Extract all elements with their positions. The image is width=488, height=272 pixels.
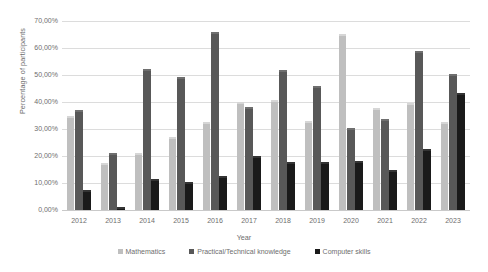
bar-face [287, 164, 295, 210]
bar-face [449, 76, 457, 210]
bar-top [441, 122, 449, 124]
bar [381, 121, 389, 210]
bar [169, 139, 177, 210]
bar-face [381, 121, 389, 210]
bar-face [313, 88, 321, 210]
legend-label: Practical/Technical knowledge [197, 248, 290, 255]
bar-face [347, 130, 355, 210]
bar-top [381, 119, 389, 121]
bar-top [67, 116, 75, 118]
bar [449, 76, 457, 210]
bar-top [423, 149, 431, 151]
y-axis-tick: 70,00% [16, 17, 58, 25]
bar-top [185, 182, 193, 184]
bar [75, 112, 83, 210]
bar-face [185, 184, 193, 210]
bar-face [373, 110, 381, 210]
legend-item[interactable]: Mathematics [118, 248, 166, 255]
bar-top [279, 70, 287, 72]
legend-swatch [189, 249, 194, 254]
bar [415, 53, 423, 210]
bar-top [415, 51, 423, 53]
bar [305, 123, 313, 210]
bar-top [407, 103, 415, 105]
legend-item[interactable]: Practical/Technical knowledge [189, 248, 290, 255]
bar [237, 104, 245, 210]
bar-group [373, 21, 398, 210]
gridline [62, 210, 470, 211]
bar-top [271, 100, 279, 102]
bar [117, 209, 125, 210]
bar-top [143, 69, 151, 71]
bar-top [83, 190, 91, 192]
x-axis-title: Year [0, 233, 488, 242]
legend-swatch [315, 249, 320, 254]
bar [355, 163, 363, 210]
bar [253, 158, 261, 210]
bar [143, 71, 151, 210]
bar [407, 105, 415, 210]
bar [135, 155, 143, 210]
bar-top [457, 93, 465, 95]
x-axis-tick: 2016 [198, 216, 232, 225]
bar-face [101, 165, 109, 210]
y-axis-tick: 40,00% [16, 98, 58, 106]
bar [423, 151, 431, 210]
bar [109, 155, 117, 210]
bar [279, 72, 287, 210]
bar-group [305, 21, 330, 210]
x-axis-tick: 2022 [402, 216, 436, 225]
bar [373, 110, 381, 210]
bar-face [151, 181, 159, 210]
bar-face [83, 192, 91, 210]
bar [321, 164, 329, 210]
legend-label: Mathematics [126, 248, 166, 255]
bar [67, 118, 75, 210]
bar-top [253, 156, 261, 158]
bar-top [237, 102, 245, 104]
bar-top [355, 161, 363, 163]
x-axis-tick: 2018 [266, 216, 300, 225]
bar-face [415, 53, 423, 210]
bar-face [117, 209, 125, 210]
bar-top [203, 122, 211, 124]
bar [389, 172, 397, 210]
bar-chart: Percentage of participants 0,00%10,00%20… [0, 0, 488, 272]
bar-group [67, 21, 92, 210]
bar-top [389, 170, 397, 172]
bar-group [441, 21, 466, 210]
bar-face [245, 109, 253, 210]
x-axis-tick: 2021 [368, 216, 402, 225]
chart-legend: MathematicsPractical/Technical knowledge… [0, 248, 488, 255]
y-axis-tick: 30,00% [16, 125, 58, 133]
bar-group [135, 21, 160, 210]
bar [203, 124, 211, 210]
bar-top [347, 128, 355, 130]
y-axis-tick: 20,00% [16, 152, 58, 160]
bar [211, 34, 219, 210]
bar-face [177, 79, 185, 210]
bar [185, 184, 193, 210]
bar-top [219, 176, 227, 178]
bar-group [407, 21, 432, 210]
bar-face [441, 124, 449, 210]
bar-face [355, 163, 363, 210]
bar-top [75, 110, 83, 112]
bar [219, 178, 227, 210]
bar-face [253, 158, 261, 210]
bar-face [143, 71, 151, 210]
bar-top [101, 163, 109, 165]
bar-face [305, 123, 313, 210]
bar-face [135, 155, 143, 210]
bar-top [449, 74, 457, 76]
bar [245, 109, 253, 210]
bar-top [177, 77, 185, 79]
bar-group [101, 21, 126, 210]
bar [287, 164, 295, 210]
legend-label: Computer skills [323, 248, 371, 255]
bar-face [219, 178, 227, 210]
bar-face [339, 36, 347, 210]
bar-top [169, 137, 177, 139]
legend-item[interactable]: Computer skills [315, 248, 371, 255]
bar-face [271, 102, 279, 210]
